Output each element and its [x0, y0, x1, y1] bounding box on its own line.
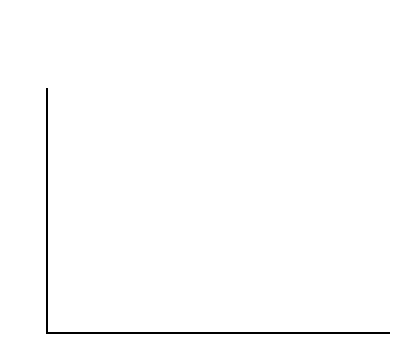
bar-groups [48, 88, 390, 332]
bar-chart [0, 0, 402, 361]
plot-area [46, 88, 390, 334]
x-axis-line [46, 332, 390, 334]
